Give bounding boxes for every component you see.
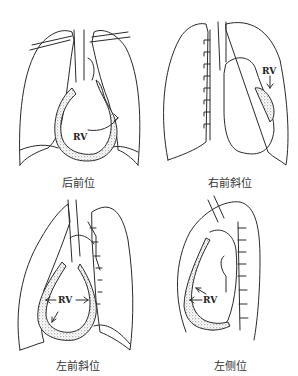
caption-pa-view: 后前位 (28, 174, 128, 190)
aortic-inner (221, 256, 226, 292)
caption-lao-view: 左前斜位 (28, 357, 128, 373)
rv-arrow-upper (196, 288, 206, 294)
trachea (218, 22, 226, 70)
left-lung-outline (92, 30, 140, 165)
panel-lateral-view: RV (177, 196, 260, 340)
rv-label-lao: RV (58, 295, 73, 305)
caption-rao-view: 右前斜位 (180, 174, 280, 190)
trachea (74, 30, 84, 82)
caption-lateral-view: 左侧位 (180, 357, 280, 373)
trachea (68, 200, 80, 262)
rv-band (55, 80, 117, 161)
rv-label-rao: RV (262, 66, 277, 76)
posterior-lung-outline (164, 24, 208, 160)
rv-arrow (267, 76, 273, 88)
rv-arrow-right (76, 297, 88, 303)
aortic-knob (88, 58, 94, 80)
clavicle-right (30, 36, 72, 50)
clavicle-left (90, 32, 130, 42)
panel-pa-view: RV (20, 30, 140, 165)
panel-rao-view: RV (164, 22, 288, 165)
aortic-arch (70, 235, 94, 244)
heart-outline (204, 230, 237, 330)
rv-label-lateral: RV (203, 295, 218, 305)
spine-vertebrae (238, 222, 248, 330)
rv-label-pa: RV (73, 132, 88, 142)
rv-band (184, 238, 230, 330)
rv-arrow-lower (52, 312, 58, 322)
panel-lao-view: RV (18, 200, 133, 350)
trachea (208, 196, 224, 222)
rv-band (255, 88, 274, 122)
